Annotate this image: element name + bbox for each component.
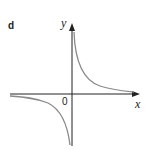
y-axis-label: y: [61, 16, 66, 31]
hyperbola-branch-q3: [10, 96, 70, 145]
hyperbola-branch-q1: [74, 32, 134, 92]
x-axis-label: x: [135, 97, 140, 112]
origin-label: 0: [62, 96, 68, 107]
panel-label: d: [8, 20, 14, 31]
y-axis-arrow-icon: [69, 23, 75, 31]
graph-canvas: [0, 0, 148, 150]
